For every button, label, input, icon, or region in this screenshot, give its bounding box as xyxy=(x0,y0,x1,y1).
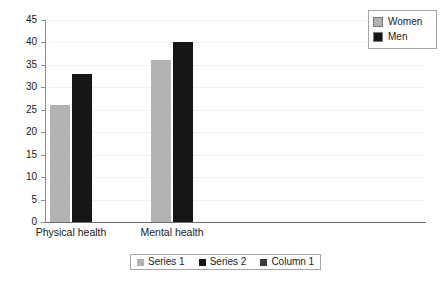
legend-swatch-men xyxy=(373,32,383,42)
x-axis-label: Mental health xyxy=(112,226,232,238)
y-axis-tick-label: 10 xyxy=(0,172,37,182)
series-legend-label-3: Column 1 xyxy=(271,257,314,267)
bar-women-physical-health xyxy=(50,105,70,222)
series-swatch-1 xyxy=(137,259,144,266)
series-legend-item-1: Series 1 xyxy=(137,257,185,267)
series-legend-label-1: Series 1 xyxy=(148,257,185,267)
bar-men-physical-health xyxy=(72,74,92,222)
x-axis-line xyxy=(45,222,426,223)
legend-item-men: Men xyxy=(373,29,433,44)
plot-area xyxy=(45,20,425,222)
legend-item-women: Women xyxy=(373,14,433,29)
bar-chart: 051015202530354045 Physical healthMental… xyxy=(0,0,441,283)
y-axis-tick-label: 45 xyxy=(0,15,37,25)
y-axis-tick-label: 15 xyxy=(0,150,37,160)
legend-swatch-women xyxy=(373,17,383,27)
y-axis-tick-label: 25 xyxy=(0,105,37,115)
chart-legend: Women Men xyxy=(368,10,437,49)
y-axis-tick-label: 5 xyxy=(0,195,37,205)
series-swatch-3 xyxy=(260,259,267,266)
legend-label-women: Women xyxy=(388,17,422,27)
series-legend-item-2: Series 2 xyxy=(199,257,247,267)
bar-women-mental-health xyxy=(151,60,171,222)
series-legend-label-2: Series 2 xyxy=(210,257,247,267)
y-axis-tick-label: 30 xyxy=(0,82,37,92)
y-axis-tick-label: 40 xyxy=(0,37,37,47)
y-axis-tick-label: 35 xyxy=(0,60,37,70)
series-legend-item-3: Column 1 xyxy=(260,257,314,267)
bar-men-mental-health xyxy=(173,42,193,222)
y-axis-tick-label: 20 xyxy=(0,127,37,137)
legend-label-men: Men xyxy=(388,32,407,42)
series-legend: Series 1 Series 2 Column 1 xyxy=(130,254,321,270)
series-swatch-2 xyxy=(199,259,206,266)
